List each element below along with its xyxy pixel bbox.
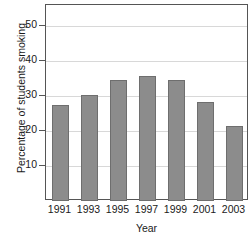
y-axis-tick-label: 20 <box>1 124 37 135</box>
y-axis-tick-label: 10 <box>1 159 37 170</box>
gridline <box>46 26 247 27</box>
y-axis-tick-label: 50 <box>1 19 37 30</box>
y-axis-tick <box>39 130 45 131</box>
y-axis-tick <box>39 60 45 61</box>
bar <box>52 105 69 201</box>
x-axis-tick-label: 2003 <box>219 203 248 215</box>
y-axis-tick <box>39 165 45 166</box>
bar <box>139 76 156 201</box>
x-axis-tick-label: 2001 <box>190 203 219 215</box>
y-axis-tick-label: 30 <box>1 89 37 100</box>
bar <box>110 80 127 201</box>
y-axis-tick-labels: 1020304050 <box>0 0 37 240</box>
x-axis-title: Year <box>45 222 248 235</box>
y-axis-tick <box>39 25 45 26</box>
y-axis-tick <box>39 95 45 96</box>
x-axis-tick-label: 1993 <box>74 203 103 215</box>
bar <box>197 102 214 201</box>
x-axis-tick-label: 1995 <box>103 203 132 215</box>
x-axis-tick-labels: 1991199319951997199920012003 <box>45 203 248 217</box>
bar <box>168 80 185 201</box>
x-axis-tick-label: 1991 <box>45 203 74 215</box>
bar-chart: Percentage of students smoking 102030405… <box>0 0 251 240</box>
plot-area <box>45 4 248 200</box>
y-axis-tick-label: 40 <box>1 54 37 65</box>
x-axis-tick-label: 1999 <box>161 203 190 215</box>
bar <box>81 95 98 201</box>
x-axis-tick-label: 1997 <box>132 203 161 215</box>
gridline <box>46 61 247 62</box>
bar <box>226 126 243 201</box>
